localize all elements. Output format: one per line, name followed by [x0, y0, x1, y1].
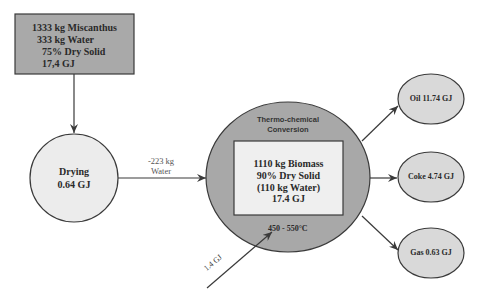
output-coke-label: Coke 4.74 GJ: [398, 172, 464, 181]
reactor-title-line-2: Conversion: [238, 125, 338, 134]
reactor-inner-line-4: 17.4 GJ: [234, 193, 343, 204]
arrow-to-oil: [362, 106, 398, 141]
drying-energy: 0.64 GJ: [30, 179, 118, 190]
arrow-to-gas: [362, 216, 398, 250]
input-line-4: 17,4 GJ: [42, 58, 75, 69]
drying-node: [30, 134, 118, 222]
reactor-inner-line-1: 1110 kg Biomass: [234, 158, 343, 169]
input-line-3: 75% Dry Solid: [42, 46, 105, 57]
water-removed-line-1: -223 kg: [130, 156, 192, 166]
input-line-2: 333 kg Water: [37, 34, 94, 45]
input-line-1: 1333 kg Miscanthus: [32, 22, 117, 33]
reactor-temperature: 450 - 550°C: [268, 224, 308, 233]
reactor-inner-line-2: 90% Dry Solid: [234, 170, 343, 181]
output-gas-label: Gas 0.63 GJ: [398, 248, 464, 257]
water-removed-line-2: Water: [130, 166, 192, 176]
reactor-inner-line-3: (110 kg Water): [234, 182, 343, 193]
output-oil-label: Oil 11.74 GJ: [398, 94, 464, 103]
drying-title: Drying: [30, 166, 118, 177]
reactor-title-line-1: Thermo-chemical: [238, 115, 338, 124]
